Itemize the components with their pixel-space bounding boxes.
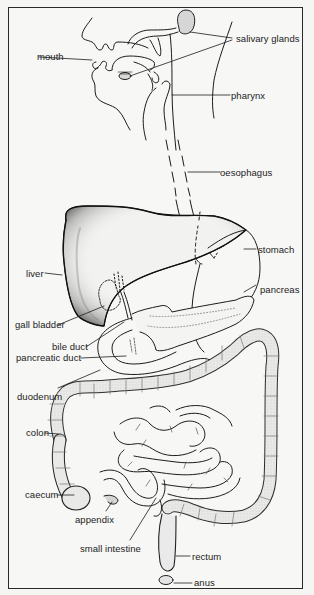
salivary-gland-sublingual bbox=[119, 73, 131, 80]
label-bile-duct: bile duct bbox=[52, 342, 88, 352]
label-stomach: stomach bbox=[258, 245, 294, 255]
small-intestine bbox=[100, 406, 240, 517]
label-appendix: appendix bbox=[75, 515, 114, 525]
digestive-system-illustration bbox=[0, 0, 314, 595]
label-pancreatic-duct: pancreatic duct bbox=[16, 353, 81, 363]
label-salivary-glands: salivary glands bbox=[236, 34, 300, 44]
label-mouth: mouth bbox=[37, 52, 64, 62]
label-gall-bladder: gall bladder bbox=[15, 320, 65, 330]
label-small-intestine: small intestine bbox=[80, 544, 141, 554]
anus-shape bbox=[159, 576, 173, 585]
salivary-gland-parotid bbox=[177, 10, 194, 34]
rectum bbox=[159, 514, 176, 585]
label-colon: colon bbox=[26, 428, 49, 438]
label-rectum: rectum bbox=[192, 552, 221, 562]
label-pharynx: pharynx bbox=[231, 91, 265, 101]
label-pancreas: pancreas bbox=[260, 285, 299, 295]
label-duodenum: duodenum bbox=[17, 392, 62, 402]
caecum bbox=[62, 486, 90, 510]
head-profile bbox=[82, 18, 232, 150]
label-caecum: caecum bbox=[25, 490, 59, 500]
label-oesophagus: oesophagus bbox=[220, 168, 272, 178]
label-anus: anus bbox=[194, 578, 215, 588]
label-liver: liver bbox=[26, 269, 44, 279]
bile-duct bbox=[120, 290, 132, 320]
